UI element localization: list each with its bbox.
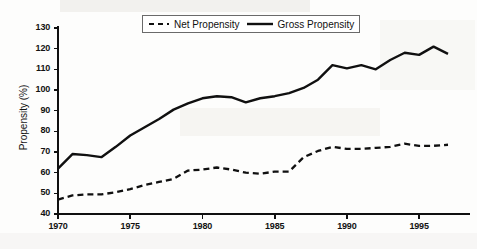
series-line-gross-propensity xyxy=(58,47,448,169)
legend-entry-gross: Gross Propensity xyxy=(246,19,355,30)
chart-screenshot: Propensity (%) 130120110100908070605040 … xyxy=(0,0,477,249)
legend-label-net: Net Propensity xyxy=(174,19,240,30)
legend-entry-net: Net Propensity xyxy=(148,19,240,30)
dashed-line-swatch xyxy=(148,20,170,28)
axis-ticks xyxy=(54,28,419,219)
solid-line-swatch xyxy=(246,20,274,28)
data-series-layer xyxy=(58,47,448,200)
series-line-net-propensity xyxy=(58,144,448,200)
legend: Net Propensity Gross Propensity xyxy=(142,15,360,33)
plot-area xyxy=(0,0,477,249)
legend-label-gross: Gross Propensity xyxy=(278,19,355,30)
